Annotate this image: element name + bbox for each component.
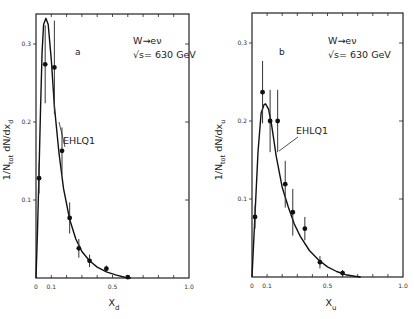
data-point	[67, 216, 72, 221]
x-tick-label: 0	[34, 283, 38, 290]
panel-b: 00.10.51.00.10.20.3Xu1/Ntot dN/dxubW→eν√…	[213, 13, 408, 312]
x-axis-label: Xd	[109, 297, 120, 312]
y-axis-label: 1/Ntot dN/dxu	[213, 120, 227, 181]
y-tick-label: 0.3	[21, 40, 31, 47]
x-tick-label: 0.5	[108, 283, 118, 290]
data-point	[60, 148, 65, 153]
data-point	[318, 260, 323, 265]
data-point	[253, 215, 258, 220]
curve-label: EHLQ1	[296, 125, 328, 136]
data-point	[125, 275, 130, 280]
x-tick-label: 0	[250, 282, 254, 289]
y-tick-label: 0.2	[237, 117, 247, 124]
x-axis-label: Xu	[326, 297, 337, 312]
data-point	[283, 182, 288, 187]
data-point	[104, 266, 109, 271]
x-tick-label: 0.5	[323, 282, 333, 289]
data-point	[76, 246, 81, 251]
data-point	[290, 210, 295, 215]
process-annotation: √s= 630 GeV	[133, 49, 196, 60]
figure: 00.10.51.00.10.20.3Xd1/Ntot dN/dxdaW→eν√…	[0, 0, 414, 319]
process-annotation: W→eν	[328, 35, 357, 46]
x-tick-label: 0.1	[47, 283, 57, 290]
data-point	[260, 90, 265, 95]
y-axis-label: 1/Ntot dN/dxd	[1, 120, 15, 181]
y-tick-label: 0.3	[237, 39, 247, 46]
y-tick-label: 0.1	[237, 195, 247, 202]
plot-canvas: 00.10.51.00.10.20.3Xd1/Ntot dN/dxdaW→eν√…	[0, 0, 414, 319]
data-point	[43, 62, 48, 67]
x-tick-label: 1.0	[398, 282, 408, 289]
y-tick-label: 0.2	[21, 118, 31, 125]
process-annotation: √s= 630 GeV	[328, 49, 391, 60]
data-point	[87, 258, 92, 263]
data-point	[52, 65, 57, 70]
data-point	[302, 226, 307, 231]
y-tick-label: 0.1	[21, 196, 31, 203]
curve-label-pointer	[279, 137, 298, 151]
ehlq1-curve	[36, 18, 131, 278]
x-tick-label: 1.0	[184, 283, 194, 290]
curve-label: EHLQ1	[63, 135, 95, 146]
process-annotation: W→eν	[133, 35, 162, 46]
panel-a: 00.10.51.00.10.20.3Xd1/Ntot dN/dxdaW→eν√…	[1, 14, 196, 312]
data-point	[340, 271, 345, 276]
panel-letter: b	[279, 47, 285, 57]
data-point	[268, 119, 273, 124]
x-tick-label: 0.1	[262, 282, 272, 289]
data-point	[37, 176, 42, 181]
data-point	[275, 119, 280, 124]
panel-letter: a	[75, 47, 81, 57]
